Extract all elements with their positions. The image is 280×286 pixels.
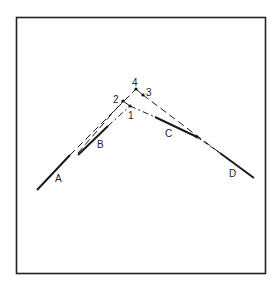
dashed-line-3-to-d (143, 95, 220, 153)
segment-a (37, 155, 70, 190)
label-d: D (229, 168, 236, 179)
label-4: 4 (132, 77, 138, 88)
label-1: 1 (128, 110, 134, 121)
point-3 (141, 93, 144, 96)
label-a: A (55, 173, 62, 184)
point-cd (196, 136, 199, 139)
point-2 (121, 99, 124, 102)
segment-d (220, 153, 254, 178)
dashed-line-1-to-c (130, 106, 155, 117)
label-2: 2 (113, 94, 119, 105)
point-1 (128, 104, 131, 107)
dashed-line-b-to-1 (108, 106, 130, 126)
segment-c (155, 117, 197, 137)
diagram: A B C D 1 2 3 4 (0, 0, 280, 286)
label-3: 3 (146, 87, 152, 98)
label-b: B (97, 139, 104, 150)
label-c: C (165, 128, 172, 139)
frame (17, 18, 266, 274)
